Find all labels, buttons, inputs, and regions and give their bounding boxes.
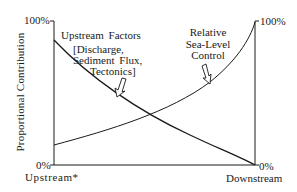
upstream-label-line4: Tectonics]: [90, 65, 136, 77]
sealevel-label-line1: Relative: [178, 26, 238, 38]
y-tick-0-left: 0%: [36, 159, 51, 171]
x-label-downstream: Downstream: [226, 172, 282, 184]
x-label-upstream: Upstream*: [25, 171, 79, 183]
sealevel-label-line3: Control: [178, 49, 238, 61]
upstream-label-line1: Upstream Factors: [61, 29, 141, 41]
sealevel-arrow-icon: [202, 64, 211, 84]
y-tick-0-right: 0%: [259, 160, 274, 172]
y-tick-100-left: 100%: [24, 14, 50, 26]
upstream-arrow-icon: [115, 78, 126, 97]
y-axis-label: Proportional Contribution: [14, 22, 26, 162]
y-tick-100-right: 100%: [260, 15, 286, 27]
